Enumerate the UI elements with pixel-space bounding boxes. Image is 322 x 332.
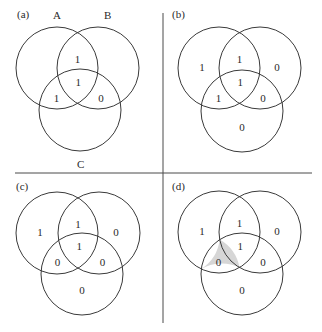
region-bc: 0 (260, 256, 266, 268)
region-ab: 1 (75, 53, 81, 65)
region-ab: 1 (237, 217, 243, 229)
region-ac: 1 (216, 92, 222, 104)
panel-label: (c) (16, 180, 29, 193)
set-label-b: B (104, 9, 111, 21)
region-bc: 0 (100, 256, 106, 268)
region-a-only: 1 (37, 226, 43, 238)
region-ab: 1 (75, 218, 81, 230)
panel-label: (d) (172, 180, 185, 193)
region-bc: 0 (260, 92, 266, 104)
set-label-a: A (53, 9, 61, 21)
panel-b: (b) 1 0 0 1 1 0 1 (172, 8, 301, 152)
region-a-only: 1 (199, 61, 205, 73)
region-abc: 1 (76, 76, 82, 88)
region-b-only: 0 (274, 225, 280, 237)
set-label-c: C (77, 158, 84, 170)
panel-label: (b) (172, 8, 185, 21)
region-c-only: 0 (239, 284, 245, 296)
region-bc: 0 (98, 92, 104, 104)
venn-diagram-canvas: (a) A B C 1 1 0 1 (b) 1 0 0 1 1 0 1 (0, 0, 322, 332)
region-abc: 1 (77, 240, 83, 252)
region-ac: 0 (216, 256, 222, 268)
region-abc: 1 (238, 76, 244, 88)
region-a-only: 1 (199, 225, 205, 237)
panel-label: (a) (17, 8, 30, 21)
venn-figure: (a) A B C 1 1 0 1 (b) 1 0 0 1 1 0 1 (0, 0, 322, 332)
region-ab: 1 (237, 53, 243, 65)
panel-a: (a) A B C 1 1 0 1 (16, 8, 139, 170)
region-ac: 1 (54, 92, 60, 104)
panel-d: (d) 1 0 0 1 0 0 1 (172, 180, 301, 315)
region-b-only: 0 (113, 226, 119, 238)
region-b-only: 0 (274, 61, 280, 73)
region-ac: 0 (55, 256, 61, 268)
panel-c: (c) 1 0 0 1 0 0 1 (16, 180, 140, 315)
region-abc: 1 (238, 240, 244, 252)
region-c-only: 0 (79, 284, 85, 296)
region-c-only: 0 (239, 121, 245, 133)
